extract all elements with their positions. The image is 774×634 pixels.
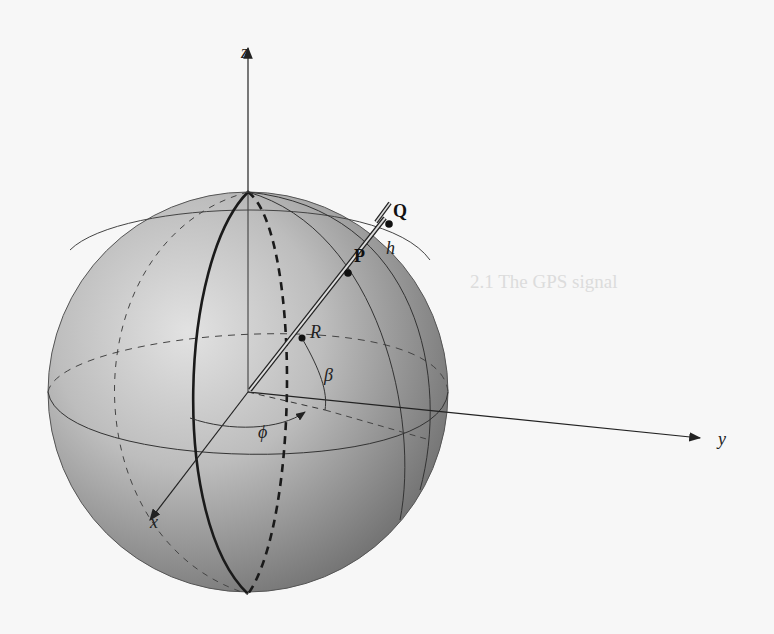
beta-label: β [323,365,333,385]
point-q-label: Q [393,201,407,221]
phi-label: ϕ [258,422,267,442]
z-axis-label: z [240,42,248,62]
x-axis-label: x [149,512,158,532]
point-p-label: P [354,246,365,266]
sphere-diagram: z y x Q P R h β ϕ [0,0,774,634]
point-r-marker [299,335,306,342]
point-q [385,220,393,228]
r-label: R [309,322,321,342]
y-axis-label: y [716,429,726,449]
point-p [344,269,352,277]
h-label: h [386,238,395,258]
